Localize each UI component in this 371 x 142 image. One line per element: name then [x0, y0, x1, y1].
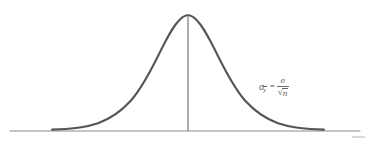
normal-distribution-plot [0, 0, 371, 142]
scan-artifact-speck [352, 136, 365, 138]
formula-equals-sign: = [270, 82, 275, 91]
formula-ybar-overbar: y [263, 86, 267, 94]
standard-error-formula: σy= σ √n [259, 76, 289, 97]
formula-fraction: σ √n [277, 76, 289, 97]
formula-numerator-sigma: σ [278, 76, 286, 86]
formula-denominator-n: n [282, 88, 288, 98]
formula-ybar-subscript: y [263, 86, 267, 94]
bell-curve-figure: σy= σ √n [0, 0, 371, 142]
formula-denominator: √n [277, 87, 289, 98]
